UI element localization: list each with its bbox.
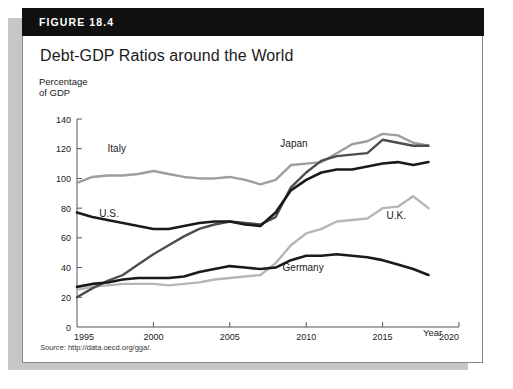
y-tick-label: 20 <box>61 293 71 303</box>
series-line-japan <box>77 140 428 297</box>
x-tick-label: 2010 <box>296 332 316 342</box>
series-label-germany: Germany <box>283 262 324 273</box>
figure-card: FIGURE 18.4 Debt-GDP Ratios around the W… <box>22 8 483 363</box>
x-tick-label: 2000 <box>143 332 163 342</box>
series-line-uk <box>77 196 428 290</box>
y-tick-label: 40 <box>61 263 71 273</box>
y-tick-label: 0 <box>66 323 71 333</box>
y-tick-label: 100 <box>56 174 71 184</box>
source-prefix: Source: <box>40 343 66 352</box>
series-label-us: U.S. <box>99 208 118 219</box>
series-line-italy <box>77 134 428 185</box>
x-tick-label: 2005 <box>220 332 240 342</box>
series-label-japan: Japan <box>280 138 307 149</box>
x-tick-label: 2020 <box>439 332 459 342</box>
series-label-uk: U.K. <box>387 210 406 221</box>
line-chart: 0204060801001201401995200020052010201520… <box>23 9 484 364</box>
y-tick-label: 80 <box>61 204 71 214</box>
x-tick-label: 1995 <box>74 332 94 342</box>
source-url: http://data.oecd.org/gga/. <box>68 343 151 352</box>
y-tick-label: 140 <box>56 115 71 125</box>
series-line-us <box>77 162 428 229</box>
x-tick-label: 2015 <box>373 332 393 342</box>
source-note: Source: http://data.oecd.org/gga/. <box>40 343 151 352</box>
chart-series-labels: ItalyU.S.JapanGermanyU.K. <box>99 138 406 272</box>
y-tick-label: 60 <box>61 233 71 243</box>
figure-page: FIGURE 18.4 Debt-GDP Ratios around the W… <box>0 0 513 389</box>
y-tick-label: 120 <box>56 144 71 154</box>
chart-series <box>77 134 428 297</box>
series-label-italy: Italy <box>108 143 126 154</box>
